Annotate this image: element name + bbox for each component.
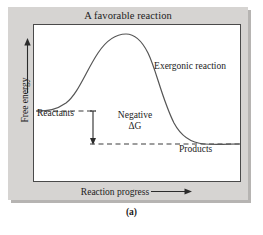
negative-delta-g-label: Negative ΔG xyxy=(106,110,164,132)
figure-caption: (a) xyxy=(0,207,263,217)
exergonic-reaction-label: Exergonic reaction xyxy=(152,61,228,72)
x-axis: Reaction progress xyxy=(33,183,241,200)
reactants-label: Reactants xyxy=(37,109,74,119)
delta-g-arrow-icon xyxy=(90,111,96,145)
delta-g-label-line1: Negative xyxy=(118,110,152,120)
exergonic-label-line2: reaction xyxy=(195,61,226,71)
figure-title: A favorable reaction xyxy=(8,10,248,21)
exergonic-label-line1: Exergonic xyxy=(154,61,193,71)
right-arrow-icon xyxy=(151,187,193,196)
products-label: Products xyxy=(179,145,212,155)
x-axis-label: Reaction progress xyxy=(81,187,149,197)
y-axis: Free energy xyxy=(17,31,33,189)
plot-area: Reactants Products Exergonic reaction Ne… xyxy=(33,24,241,182)
delta-g-label-line2: ΔG xyxy=(106,121,164,132)
figure-panel: A favorable reaction Reactants Products … xyxy=(8,7,248,200)
energy-profile-plot xyxy=(34,25,241,182)
y-axis-label: Free energy xyxy=(20,48,30,152)
